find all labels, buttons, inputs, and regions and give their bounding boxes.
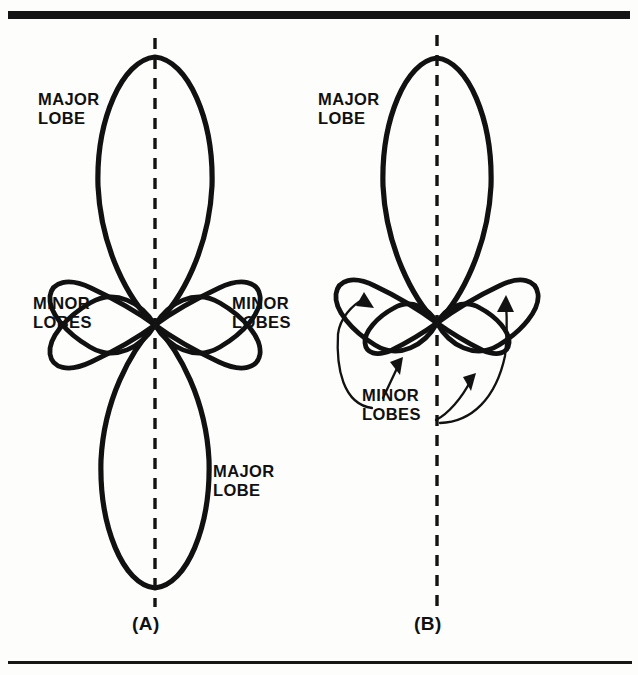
- a-major-lobe-top-label: MAJOR LOBE: [38, 90, 100, 128]
- b-minor-lobe-upper-left: [336, 280, 437, 351]
- a-major-lobe-bottom-label: MAJOR LOBE: [213, 462, 275, 500]
- b-arrow-head-upper-right: [497, 295, 514, 312]
- b-major-lobe-top-label: MAJOR LOBE: [318, 90, 380, 128]
- a-minor-lobes-right-label: MINOR LOBES: [232, 294, 291, 332]
- b-arrow-head-upper-left: [356, 292, 374, 308]
- a-minor-lobes-left-label: MINOR LOBES: [33, 294, 92, 332]
- diagram-a-caption: (A): [132, 613, 160, 635]
- b-minor-lobes-label: MINOR LOBES: [362, 386, 421, 424]
- bottom-border-rule: [8, 661, 632, 664]
- b-minor-lobe-upper-right: [437, 280, 538, 351]
- diagram-b-caption: (B): [414, 613, 442, 635]
- b-arrow-head-lower-left: [390, 357, 403, 375]
- figure-root: MAJOR LOBE MINOR LOBES MINOR LOBES MAJOR…: [0, 0, 638, 675]
- b-arrow-to-lower-right-lobe: [436, 380, 471, 420]
- b-arrow-head-lower-right: [463, 373, 476, 391]
